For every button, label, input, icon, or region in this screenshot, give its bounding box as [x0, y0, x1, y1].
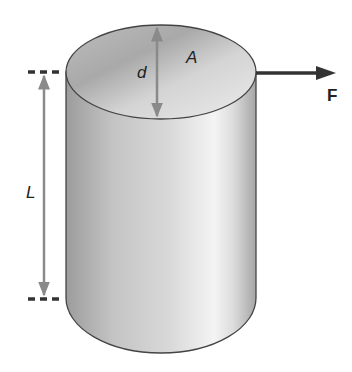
- force-arrow: [256, 66, 336, 80]
- area-label: A: [185, 48, 197, 67]
- diameter-label: d: [137, 63, 147, 82]
- cylinder-top-face: [66, 25, 256, 119]
- length-label: L: [26, 183, 35, 202]
- force-label: F: [327, 86, 337, 105]
- cylinder-diagram: d A L F: [0, 0, 352, 372]
